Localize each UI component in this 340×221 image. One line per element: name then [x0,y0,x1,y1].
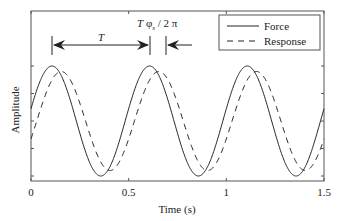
x-tick-label: 1.5 [317,186,331,198]
x-tick-label: 0.5 [122,186,136,198]
legend: Force Response [219,15,320,50]
x-axis-label: Time (s) [158,203,196,216]
period-label: T [98,31,105,43]
period-annotation: T [52,31,150,55]
legend-response-label: Response [264,35,306,47]
force-series-line [31,66,324,176]
x-tick-label: 0 [28,186,34,198]
response-series-line [31,72,324,171]
chart: T T φs / 2 π Force Response Time (s) Amp… [0,0,340,221]
x-tick-labels: 00.511.5 [28,186,331,198]
phase-label: T φs / 2 π [137,17,178,32]
legend-force-label: Force [264,20,289,32]
phase-annotation: T φs / 2 π [137,17,192,55]
x-tick-label: 1 [224,186,230,198]
y-axis-label: Amplitude [9,86,21,133]
y-ticks [31,66,324,176]
